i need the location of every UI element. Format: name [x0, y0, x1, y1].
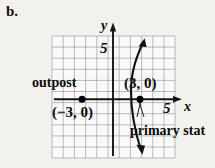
annotation-outpost: outpost	[32, 75, 77, 90]
annotation-station-coords: (3, 0)	[124, 75, 157, 92]
annotation-primary-station: primary stat	[130, 123, 205, 138]
point-primary-station[interactable]	[137, 96, 144, 103]
annotation-outpost-coords: (−3, 0)	[52, 104, 93, 121]
x-axis-label: x	[183, 99, 191, 114]
y-axis-label: y	[99, 18, 108, 33]
x-tick-5: 5	[163, 100, 171, 116]
point-outpost[interactable]	[79, 96, 86, 103]
coordinate-plane: y x 5 5 outpost (−3, 0) (3, 0) primary s…	[0, 0, 215, 168]
figure-container: b.	[0, 0, 215, 168]
y-tick-5: 5	[100, 40, 108, 56]
